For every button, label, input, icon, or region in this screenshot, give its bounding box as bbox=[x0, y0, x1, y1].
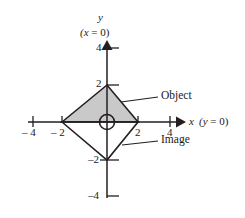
object-triangle bbox=[62, 85, 138, 122]
y-tick-label-2: 2 bbox=[96, 78, 102, 89]
x-tick-label--2: – 2 bbox=[51, 127, 65, 138]
x-axis-name: x bbox=[189, 116, 194, 127]
figure-canvas: y (x = 0) x (y = 0) – 4 – 2 2 4 4 2 –2 –… bbox=[0, 0, 245, 218]
y-tick-label-4: 4 bbox=[96, 42, 102, 53]
x-axis-condition: (y = 0) bbox=[199, 116, 228, 127]
object-callout-leader bbox=[121, 97, 158, 102]
x-axis-condition-value: = 0) bbox=[210, 115, 228, 127]
y-axis-condition-value: = 0) bbox=[91, 26, 109, 38]
y-axis-name: y bbox=[98, 12, 103, 23]
x-tick-label--4: – 4 bbox=[22, 127, 36, 138]
x-axis-arrowhead bbox=[176, 117, 186, 128]
image-callout-label: Image bbox=[161, 134, 190, 146]
diagram-svg bbox=[0, 0, 245, 218]
object-callout-label: Object bbox=[161, 90, 192, 102]
y-axis-condition-var: (x bbox=[80, 26, 89, 38]
image-triangle bbox=[62, 122, 138, 160]
image-callout-leader bbox=[122, 141, 158, 145]
x-axis-condition-var: (y bbox=[199, 115, 208, 127]
y-axis-condition: (x = 0) bbox=[80, 27, 109, 38]
y-tick-label--2: –2 bbox=[88, 154, 99, 165]
y-tick-label--4: –4 bbox=[88, 190, 99, 201]
x-tick-label-2: 2 bbox=[135, 127, 141, 138]
